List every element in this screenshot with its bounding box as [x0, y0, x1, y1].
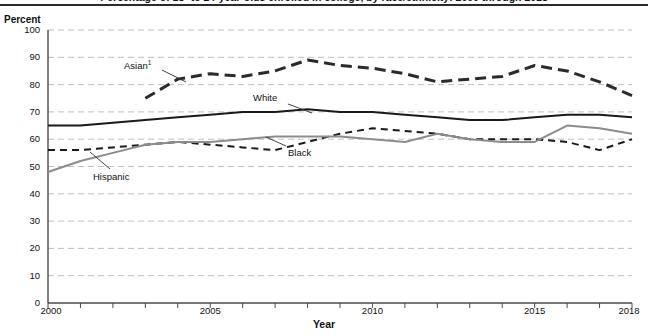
chart-figure: Percentage of 18- to 24-year-olds enroll… [0, 0, 648, 336]
y-tick-label-90: 90 [14, 52, 40, 62]
black-label: Black [288, 148, 311, 158]
y-tick-label-30: 30 [14, 216, 40, 226]
asian-label-text: Asian [124, 60, 148, 71]
asian-label-leader-line [162, 70, 186, 82]
asian-label-footnote-marker: 1 [148, 59, 152, 66]
black-label-text: Black [288, 147, 311, 158]
x-tick-label-2018: 2018 [609, 306, 648, 316]
white-label-text: White [253, 92, 277, 103]
data-series [48, 60, 632, 172]
x-tick-label-2005: 2005 [190, 306, 230, 316]
y-tick-label-10: 10 [14, 271, 40, 281]
y-tick-label-40: 40 [14, 189, 40, 199]
asian-label: Asian1 [124, 58, 151, 71]
series-line-hispanic [48, 126, 632, 172]
y-tick-label-100: 100 [14, 25, 40, 35]
y-tick-label-60: 60 [14, 134, 40, 144]
y-tick-label-70: 70 [14, 107, 40, 117]
x-tick-label-2015: 2015 [515, 306, 555, 316]
y-tick-label-80: 80 [14, 80, 40, 90]
series-line-white [48, 109, 632, 125]
hispanic-label-text: Hispanic [93, 171, 129, 182]
chart-plot-area [0, 0, 648, 336]
x-tick-label-2000: 2000 [31, 306, 71, 316]
white-label: White [253, 93, 277, 103]
black-label-leader-line [266, 137, 286, 146]
x-tick-label-2010: 2010 [352, 306, 392, 316]
hispanic-label: Hispanic [93, 172, 129, 182]
y-tick-label-20: 20 [14, 243, 40, 253]
y-tick-label-50: 50 [14, 162, 40, 172]
series-line-asian [145, 60, 632, 98]
